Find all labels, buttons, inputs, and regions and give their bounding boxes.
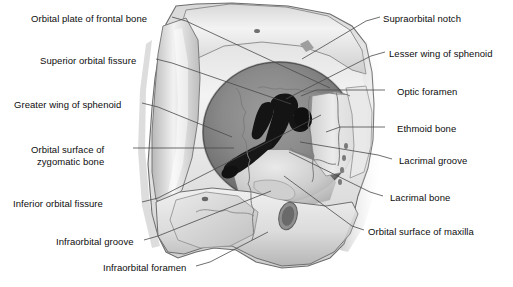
label-optic-foramen: Optic foramen xyxy=(397,86,457,98)
label-greater-wing-of-sphenoid: Greater wing of sphenoid xyxy=(14,99,121,111)
label-infraorbital-foramen: Infraorbital foramen xyxy=(103,262,186,274)
label-orbital-surface-of-zygomatic-bone: Orbital surface of zygomatic bone xyxy=(31,144,104,167)
label-orbital-surface-of-maxilla: Orbital surface of maxilla xyxy=(368,226,474,238)
supraorbital-foramen-dot xyxy=(254,29,260,33)
label-superior-orbital-fissure: Superior orbital fissure xyxy=(40,55,136,67)
label-supraorbital-notch: Supraorbital notch xyxy=(383,13,461,25)
label-orbital-plate-of-frontal-bone: Orbital plate of frontal bone xyxy=(31,13,147,25)
label-lesser-wing-of-sphenoid: Lesser wing of sphenoid xyxy=(389,48,493,60)
label-ethmoid-bone: Ethmoid bone xyxy=(397,123,456,135)
zygomaticofacial-foramen xyxy=(202,197,208,201)
label-lacrimal-bone: Lacrimal bone xyxy=(390,192,450,204)
label-inferior-orbital-fissure: Inferior orbital fissure xyxy=(13,198,103,210)
figure-canvas: Orbital plate of frontal boneSuperior or… xyxy=(0,0,513,287)
bone-mass xyxy=(138,3,384,268)
label-lacrimal-groove: Lacrimal groove xyxy=(399,155,467,167)
label-infraorbital-groove: Infraorbital groove xyxy=(56,236,134,248)
